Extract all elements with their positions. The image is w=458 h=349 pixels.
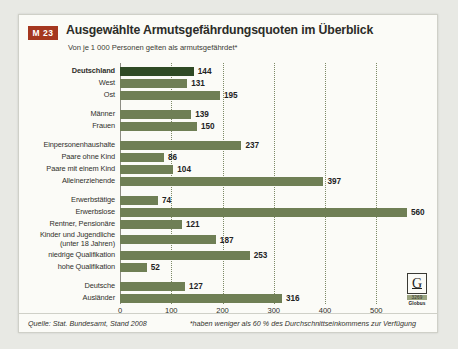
bar-value-label: 253 <box>254 251 268 260</box>
bar <box>120 122 197 131</box>
bar <box>120 294 282 303</box>
chart-bar-row: Erwerbslose560 <box>19 206 438 218</box>
bar-value-label: 397 <box>327 177 341 186</box>
bar-track: 237 <box>120 139 438 151</box>
bar-value-label: 560 <box>411 208 425 217</box>
chart-bar-row: hohe Qualifikation52 <box>19 261 438 273</box>
bar-value-label: 104 <box>177 165 191 174</box>
bar <box>120 235 216 244</box>
bar <box>120 153 164 162</box>
bar-value-label: 74 <box>162 196 171 205</box>
bar <box>120 67 194 76</box>
title-row: M 23 Ausgewählte Armutsgefährdungsquoten… <box>28 24 429 40</box>
chart-bar-row: Einpersonenhaushalte237 <box>19 139 438 151</box>
chart-bar-row: Deutsche127 <box>19 280 438 292</box>
chart-bar-row: Männer139 <box>19 108 438 120</box>
chart-bar-row: Kinder und Jugendliche (unter 18 Jahren)… <box>19 230 438 249</box>
bar-track: 187 <box>120 230 438 249</box>
bar-value-label: 131 <box>191 79 205 88</box>
chart-bar-row: Deutschland144 <box>19 65 438 77</box>
chart-bar-row: Ost195 <box>19 89 438 101</box>
category-label: West <box>19 79 120 87</box>
bar-track: 104 <box>120 163 438 175</box>
bar-track: 74 <box>120 194 438 206</box>
bar-value-label: 144 <box>198 67 212 76</box>
category-label: Ausländer <box>19 294 120 302</box>
bar <box>120 208 407 217</box>
category-label: Ost <box>19 91 120 99</box>
category-label: Paare mit einem Kind <box>19 165 120 173</box>
bar-value-label: 316 <box>286 294 300 303</box>
bar-track: 316 <box>120 292 438 304</box>
bar-value-label: 121 <box>186 220 200 229</box>
bar-track: 121 <box>120 218 438 230</box>
chart-bar-row: Erwerbstätige74 <box>19 194 438 206</box>
category-label: Erwerbslose <box>19 208 120 216</box>
bar-value-label: 139 <box>195 110 209 119</box>
bar-track: 86 <box>120 151 438 163</box>
bar <box>120 177 323 186</box>
bar-track: 560 <box>120 206 438 218</box>
chart-footer: Quelle: Stat. Bundesamt, Stand 2008 *hab… <box>19 313 438 332</box>
category-label: Einpersonenhaushalte <box>19 141 120 149</box>
chart-bar-row: Frauen150 <box>19 120 438 132</box>
bar <box>120 110 191 119</box>
infographic-card: M 23 Ausgewählte Armutsgefährdungsquoten… <box>18 14 438 333</box>
chart-bar-row: Paare mit einem Kind104 <box>19 163 438 175</box>
bar <box>120 282 185 291</box>
category-label: Kinder und Jugendliche (unter 18 Jahren) <box>19 231 120 248</box>
bar <box>120 79 187 88</box>
globus-logo-name: Globus <box>405 301 429 306</box>
chart-header: M 23 Ausgewählte Armutsgefährdungsquoten… <box>19 15 438 52</box>
category-label: Paare ohne Kind <box>19 153 120 161</box>
globus-logo: G 3269 Globus <box>405 273 429 306</box>
bar-track: 397 <box>120 175 438 187</box>
bar-track: 139 <box>120 108 438 120</box>
category-label: Deutsche <box>19 282 120 290</box>
bar-track: 195 <box>120 89 438 101</box>
category-label: Frauen <box>19 122 120 130</box>
bar-value-label: 127 <box>189 282 203 291</box>
category-label: Männer <box>19 110 120 118</box>
bar <box>120 91 220 100</box>
chart-bar-row: niedrige Qualifikation253 <box>19 249 438 261</box>
bar-value-label: 52 <box>151 263 160 272</box>
bar <box>120 196 158 205</box>
bar <box>120 220 182 229</box>
bar-track: 253 <box>120 249 438 261</box>
source-text: Quelle: Stat. Bundesamt, Stand 2008 <box>28 319 147 328</box>
globus-logo-letter: G <box>407 273 427 294</box>
bar-value-label: 187 <box>220 235 234 244</box>
bar <box>120 141 241 150</box>
bar-value-label: 237 <box>245 141 259 150</box>
bar-value-label: 195 <box>224 91 238 100</box>
bar-track: 144 <box>120 65 438 77</box>
chart-plot-area: Deutschland144West131Ost195Männer139Frau… <box>19 63 438 304</box>
chart-bar-row: Rentner, Pensionäre121 <box>19 218 438 230</box>
bar-value-label: 86 <box>168 153 177 162</box>
category-label: Deutschland <box>19 67 120 75</box>
bar-value-label: 150 <box>201 122 215 131</box>
category-label: niedrige Qualifikation <box>19 251 120 259</box>
globus-logo-number: 3269 <box>407 295 427 300</box>
bar-track: 127 <box>120 280 438 292</box>
category-label: Erwerbstätige <box>19 196 120 204</box>
chart-bar-row: Paare ohne Kind86 <box>19 151 438 163</box>
bar-track: 131 <box>120 77 438 89</box>
chart-bar-row: West131 <box>19 77 438 89</box>
footnote-text: *haben weniger als 60 % des Durchschnitt… <box>190 319 416 328</box>
chart-title: Ausgewählte Armutsgefährdungsquoten im Ü… <box>66 24 373 38</box>
chart-subtitle: Von je 1 000 Personen gelten als armutsg… <box>68 43 429 52</box>
module-badge: M 23 <box>28 26 58 40</box>
bar-track: 52 <box>120 261 438 273</box>
category-label: Rentner, Pensionäre <box>19 220 120 228</box>
chart-bar-row: Alleinerziehende397 <box>19 175 438 187</box>
bar <box>120 251 250 260</box>
category-label: hohe Qualifikation <box>19 263 120 271</box>
bar-track: 150 <box>120 120 438 132</box>
bar <box>120 263 147 272</box>
category-label: Alleinerziehende <box>19 177 120 185</box>
bar <box>120 165 173 174</box>
chart-bar-row: Ausländer316 <box>19 292 438 304</box>
